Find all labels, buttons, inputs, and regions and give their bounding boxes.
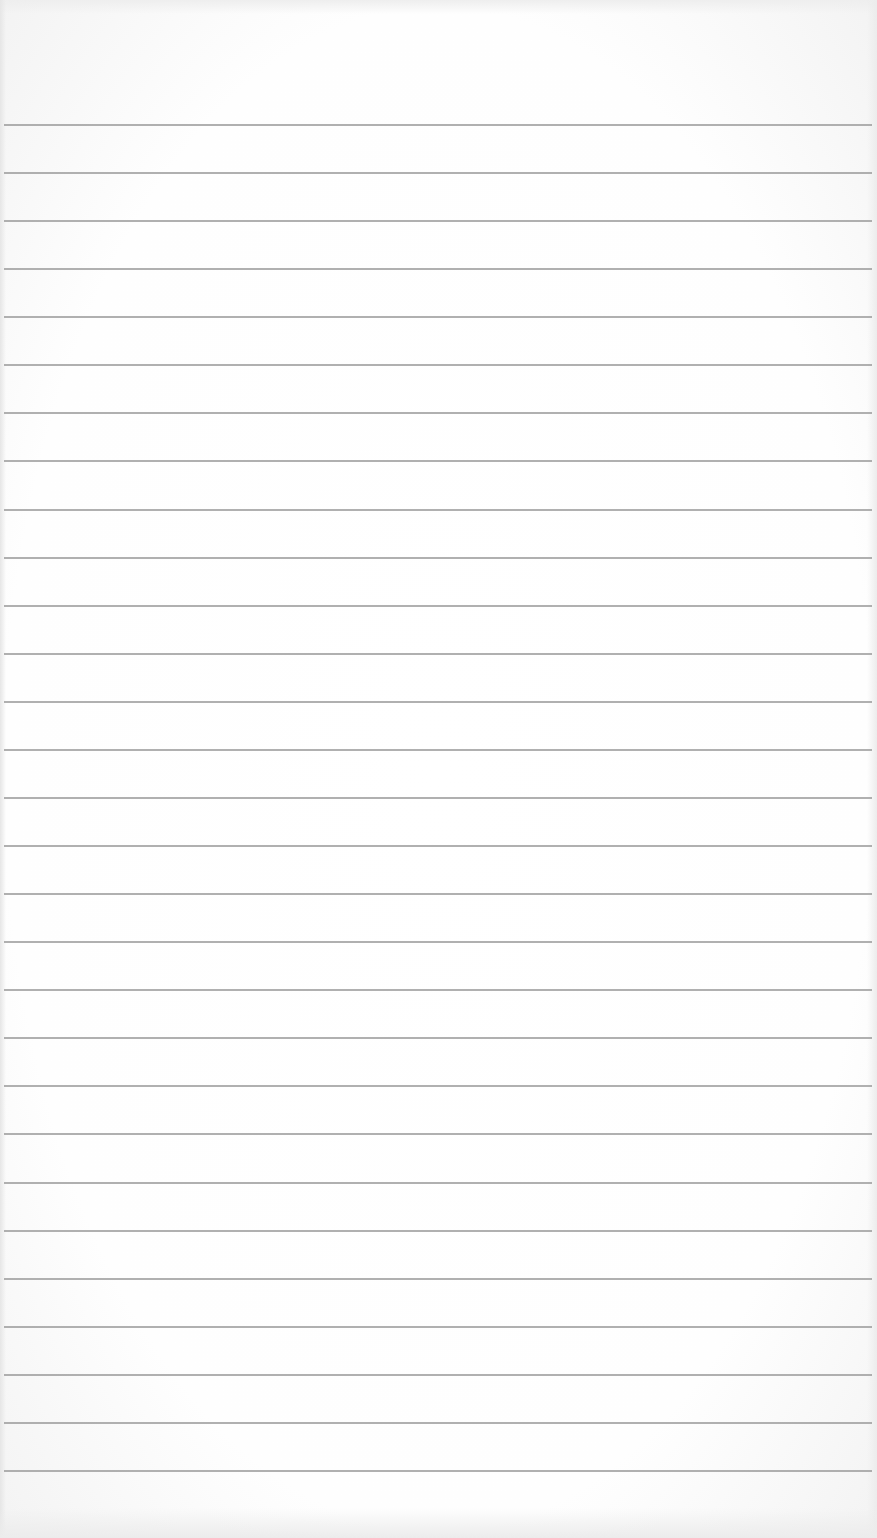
- ruled-line: [4, 1422, 872, 1424]
- ruled-line: [4, 653, 872, 655]
- ruled-line: [4, 412, 872, 414]
- ruled-line: [4, 364, 872, 366]
- ruled-line: [4, 749, 872, 751]
- ruled-line: [4, 124, 872, 126]
- ruled-line: [4, 989, 872, 991]
- ruled-line: [4, 1326, 872, 1328]
- ruled-line: [4, 268, 872, 270]
- ruled-line: [4, 893, 872, 895]
- ruled-line: [4, 1133, 872, 1135]
- ruled-line: [4, 1470, 872, 1472]
- ruled-line: [4, 1037, 872, 1039]
- paper-edge-right: [867, 0, 877, 1538]
- ruled-line: [4, 1374, 872, 1376]
- paper-edge-top: [0, 0, 877, 14]
- ruled-line: [4, 701, 872, 703]
- ruled-line: [4, 172, 872, 174]
- ruled-line: [4, 1230, 872, 1232]
- ruled-line: [4, 460, 872, 462]
- ruled-line: [4, 316, 872, 318]
- ruled-line: [4, 509, 872, 511]
- ruled-line: [4, 797, 872, 799]
- ruled-line: [4, 1085, 872, 1087]
- ruled-line: [4, 845, 872, 847]
- ruled-line: [4, 605, 872, 607]
- paper-edge-left: [0, 0, 6, 1538]
- ruled-line: [4, 1278, 872, 1280]
- ruled-line: [4, 941, 872, 943]
- ruled-line: [4, 557, 872, 559]
- lined-paper-sheet: [0, 0, 877, 1538]
- ruled-line: [4, 220, 872, 222]
- paper-edge-bottom: [0, 1508, 877, 1538]
- ruled-line: [4, 1182, 872, 1184]
